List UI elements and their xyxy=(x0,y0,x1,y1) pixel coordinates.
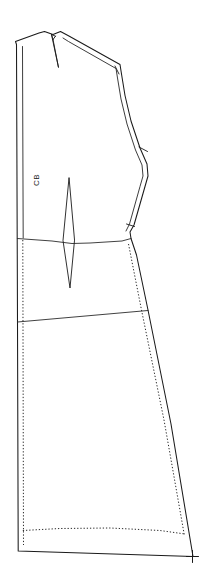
hem-stitch-line xyxy=(23,528,185,534)
pattern-svg xyxy=(0,0,204,585)
hem-corner-cross-mark xyxy=(187,551,199,563)
center-back-label: CB xyxy=(32,174,41,186)
cutting-line xyxy=(16,32,194,557)
shoulder-dart xyxy=(52,35,59,68)
seam-allowance-line xyxy=(23,38,144,238)
pattern-drawing-canvas: CB xyxy=(0,0,204,585)
hipline xyxy=(18,311,149,323)
center-back-stitch-line xyxy=(23,240,24,545)
waist-dart xyxy=(63,178,75,288)
side-seam-stitch-line xyxy=(129,244,185,536)
